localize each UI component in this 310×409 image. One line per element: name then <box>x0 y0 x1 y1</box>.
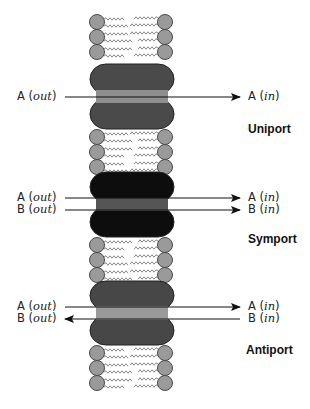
lipid-tail <box>138 240 158 242</box>
lipid-tail <box>104 371 132 373</box>
lipid-head <box>158 45 173 60</box>
lipid-tail <box>104 256 124 258</box>
transport-proteins <box>90 64 174 345</box>
lipid-tail <box>104 55 124 57</box>
lipid-tail <box>104 140 132 142</box>
lipid-head <box>90 45 105 60</box>
symport-protein <box>90 172 174 237</box>
lipid-tail <box>138 277 158 279</box>
lipid-tail <box>104 18 124 20</box>
lipid-tail <box>138 39 158 41</box>
lipid-tail <box>134 54 158 56</box>
lipid-head <box>158 376 173 391</box>
protein-subunit-bottom <box>90 99 174 129</box>
lipid-tail <box>104 278 132 280</box>
antiport-title: Antiport <box>246 343 293 357</box>
lipid-tail <box>104 33 128 35</box>
lipid-tail <box>134 348 158 350</box>
lipid-group <box>90 238 173 283</box>
lipid-head <box>158 30 173 45</box>
lipid-tail <box>104 148 132 150</box>
lipid-tail <box>104 40 132 42</box>
lipid-head <box>158 268 173 283</box>
lipid-head <box>158 361 173 376</box>
lipid-tail <box>134 255 158 257</box>
lipid-tail <box>104 356 128 358</box>
lipid-head <box>158 15 173 30</box>
lipid-tail <box>134 162 158 164</box>
protein-channel <box>96 198 168 211</box>
lipid-tail <box>104 48 132 50</box>
lipid-tail <box>130 169 158 171</box>
lipid-group <box>90 346 173 391</box>
lipid-tail <box>134 385 158 387</box>
symport-title: Symport <box>248 232 297 246</box>
lipid-head <box>90 268 105 283</box>
lipid-tail <box>104 133 128 135</box>
lipid-head <box>90 130 105 145</box>
lipid-group <box>90 130 173 175</box>
lipid-tail <box>104 386 124 388</box>
lipid-group <box>90 15 173 60</box>
lipid-head <box>90 15 105 30</box>
lipid-tail <box>104 349 124 351</box>
lipid-head <box>158 145 173 160</box>
lipid-tail <box>130 24 158 26</box>
lipid-head <box>90 361 105 376</box>
lipid-tail <box>138 147 158 149</box>
lipid-tail <box>130 355 158 357</box>
lipid-head <box>90 145 105 160</box>
lipid-head <box>90 30 105 45</box>
lipid-head <box>90 238 105 253</box>
lipid-tail <box>130 132 158 134</box>
lipid-tail <box>138 47 158 49</box>
lipid-head <box>90 253 105 268</box>
lipid-tail <box>104 364 128 366</box>
lipid-tail <box>104 163 124 165</box>
protein-subunit-bottom <box>90 207 174 237</box>
antiport-protein <box>90 281 174 345</box>
antiport-label-b-in: B (in) <box>248 312 280 324</box>
uniport-label-a-out: A (out) <box>17 90 56 102</box>
lipid-tail <box>130 270 158 272</box>
lipid-tail <box>104 379 132 381</box>
lipid-head <box>90 346 105 361</box>
antiport-label-b-out: B (out) <box>17 312 57 324</box>
lipid-tail <box>104 248 124 250</box>
symport-label-b-in: B (in) <box>248 203 280 215</box>
lipid-head <box>158 253 173 268</box>
lipid-tail <box>130 32 158 34</box>
lipid-tail <box>104 263 128 265</box>
protein-subunit-top <box>90 281 174 310</box>
lipid-tail <box>104 155 124 157</box>
uniport-title: Uniport <box>248 122 291 136</box>
lipid-head <box>158 130 173 145</box>
lipid-tail <box>104 25 128 27</box>
lipid-tail <box>134 17 158 19</box>
lipid-tail <box>130 262 158 264</box>
protein-channel <box>96 306 168 320</box>
lipid-tail <box>138 139 158 141</box>
lipid-tail <box>134 154 158 156</box>
lipid-head <box>158 346 173 361</box>
symport-label-b-out: B (out) <box>17 203 57 215</box>
uniport-label-a-in: A (in) <box>248 90 280 102</box>
lipid-tail <box>138 378 158 380</box>
lipid-tail <box>134 247 158 249</box>
protein-subunit-top <box>90 64 174 94</box>
lipid-head <box>158 238 173 253</box>
lipid-tail <box>104 271 128 273</box>
lipid-tail <box>104 241 132 243</box>
lipid-head <box>90 376 105 391</box>
lipid-tail <box>138 370 158 372</box>
lipid-tail <box>130 363 158 365</box>
protein-subunit-bottom <box>90 316 174 345</box>
